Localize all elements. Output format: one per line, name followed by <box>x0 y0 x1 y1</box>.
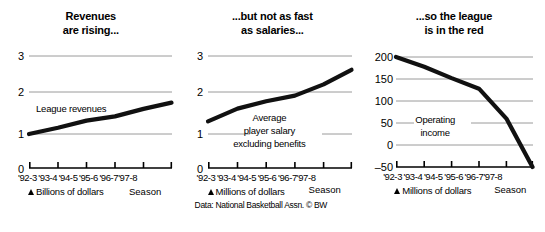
panel-1-season-label: Season <box>129 186 161 197</box>
panel-1-title: Revenues are rising... <box>0 9 182 37</box>
panel-1-unit-legend: Billions of dollars <box>28 186 103 197</box>
panel-1-annotation: League revenues <box>36 103 106 114</box>
ytick-label-3: 3 <box>196 50 202 62</box>
ytick-label-0: 0 <box>387 139 393 151</box>
ytick-label-150: 150 <box>375 73 393 85</box>
xtick-label-4: '96-7 <box>99 172 118 183</box>
nba-financials-figure: Revenues are rising... 3 2 1 0 <box>0 0 545 232</box>
ytick-label-1: 1 <box>18 128 24 140</box>
xtick-label-0: '92-3 <box>18 172 37 183</box>
panel-1-title-line-2: are rising... <box>0 23 182 37</box>
xtick-label-1: '93-4 <box>217 172 236 183</box>
panel-3-chart-svg: 200 150 100 50 0 –50 <box>363 44 545 179</box>
panel-1-xtick-labels: '92-3 '93-4 '94-5 '95-6 '96-7'97-8 <box>18 172 137 183</box>
series-operating-income <box>396 57 533 167</box>
source-attribution: Data: National Basketball Assn. © BW <box>195 200 327 210</box>
panel-3-title-line-1: ...so the league <box>363 9 545 23</box>
panel-2-title: ...but not as fast as salaries... <box>182 9 364 37</box>
panel-2-season-label: Season <box>309 184 341 195</box>
panel-revenues: Revenues are rising... 3 2 1 0 <box>0 0 182 232</box>
panel-1-title-line-1: Revenues <box>0 9 182 23</box>
panel-1-unit-text: Billions of dollars <box>36 186 103 197</box>
triangle-marker-icon <box>28 189 34 195</box>
panel-3-season-label: Season <box>494 184 526 195</box>
panel-3-annotation-line-1: Operating <box>415 113 455 126</box>
ytick-label-50: 50 <box>381 117 393 129</box>
triangle-marker-icon <box>394 188 400 194</box>
xtick-label-3: '95-6 <box>79 172 98 183</box>
panel-2-title-line-2: as salaries... <box>182 23 364 37</box>
xtick-label-2: '94-5 <box>237 172 256 183</box>
xtick-label-5: '97-8 <box>297 172 316 183</box>
panel-3-xtick-labels: '92-3 '93-4 '94-5 '95-6 '96-7'97-8 <box>383 171 502 182</box>
panel-3-annotation-line-2: income <box>415 126 455 139</box>
ytick-label-3: 3 <box>18 50 24 62</box>
xtick-label-1: '93-4 <box>38 172 57 183</box>
xtick-label-0: '92-3 <box>383 171 402 182</box>
xtick-label-4: '96-7 <box>465 171 484 182</box>
panel-2-annotation-line-1: Average <box>182 111 358 124</box>
panel-operating-income: ...so the league is in the red 200 150 1… <box>363 0 545 232</box>
panel-3-annotation: Operating income <box>415 113 455 139</box>
panel-salaries: ...but not as fast as salaries... 3 2 1 … <box>182 0 364 232</box>
ytick-label-2: 2 <box>18 86 24 98</box>
xtick-label-3: '95-6 <box>444 171 463 182</box>
panel-3-unit-text: Millions of dollars <box>402 185 471 196</box>
xtick-label-2: '94-5 <box>424 171 443 182</box>
panel-2-unit-text: Millions of dollars <box>216 186 285 197</box>
xtick-label-1: '93-4 <box>404 171 423 182</box>
ytick-label-2: 2 <box>196 86 202 98</box>
xtick-label-4: '96-7 <box>278 172 297 183</box>
ytick-label-100: 100 <box>375 95 393 107</box>
panel-2-title-line-1: ...but not as fast <box>182 9 364 23</box>
triangle-marker-icon <box>208 189 214 195</box>
xtick-label-0: '92-3 <box>197 172 216 183</box>
panel-3-title: ...so the league is in the red <box>363 9 545 37</box>
panel-2-annotation-line-3: excluding benefits <box>182 137 358 150</box>
panel-3-plot: 200 150 100 50 0 –50 <box>363 44 545 179</box>
panel-2-annotation-line-2: player salary <box>182 124 358 137</box>
xtick-label-2: '94-5 <box>59 172 78 183</box>
xtick-label-5: '97-8 <box>118 172 137 183</box>
panel-2-unit-legend: Millions of dollars <box>208 186 285 197</box>
panel-3-title-line-2: is in the red <box>363 23 545 37</box>
panel-2-annotation: Average player salary excluding benefits <box>182 111 358 150</box>
panel-3-unit-legend: Millions of dollars <box>394 185 471 196</box>
panel-2-xtick-labels: '92-3 '93-4 '94-5 '95-6 '96-7'97-8 <box>197 172 316 183</box>
xtick-label-5: '97-8 <box>483 171 502 182</box>
xtick-label-3: '95-6 <box>258 172 277 183</box>
ytick-label-200: 200 <box>375 51 393 63</box>
